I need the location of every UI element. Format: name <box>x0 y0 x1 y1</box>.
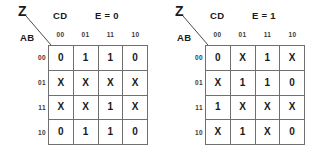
kmap-cell[interactable]: 0 <box>206 46 231 71</box>
row-variables-label: AB <box>20 32 35 43</box>
kmap-grid-row: XXXX <box>49 71 148 96</box>
row-header: 11 <box>24 95 46 120</box>
kmap-cell[interactable]: X <box>49 71 74 96</box>
row-header: 00 <box>181 45 203 70</box>
kmap-cell[interactable]: X <box>280 96 305 121</box>
row-variables-label: AB <box>177 32 192 43</box>
column-header: 10 <box>123 29 148 41</box>
kmap-grid-row: 1XXX <box>206 96 305 121</box>
kmap-grid: 0110XXXXXX1X0110 <box>48 45 148 145</box>
kmap-cell[interactable]: X <box>206 71 231 96</box>
kmap-grid-row: 0110 <box>49 120 148 145</box>
row-header: 10 <box>181 120 203 145</box>
kmap-cell[interactable]: X <box>206 120 231 145</box>
kmap-cell[interactable]: X <box>280 46 305 71</box>
kmap-cell[interactable]: 0 <box>280 120 305 145</box>
kmap-cell[interactable]: X <box>99 71 124 96</box>
column-header: 00 <box>48 29 73 41</box>
karnaugh-map-1: ZCDE = 1AB00011110000111100X1XX1101XXXX1… <box>157 0 314 153</box>
kmap-cell[interactable]: 0 <box>49 46 74 71</box>
kmap-cell[interactable]: 0 <box>123 120 148 145</box>
condition-label: E = 0 <box>95 10 119 21</box>
row-header-column: 00011110 <box>24 45 46 145</box>
kmap-cell[interactable]: X <box>74 96 99 121</box>
kmap-grid-row: X110 <box>206 71 305 96</box>
kmap-grid-row: 0X1X <box>206 46 305 71</box>
kmap-cell[interactable]: 0 <box>49 120 74 145</box>
row-header: 01 <box>24 70 46 95</box>
column-header: 01 <box>230 29 255 41</box>
column-header: 01 <box>73 29 98 41</box>
column-variables-label: CD <box>210 10 225 21</box>
kmap-cell[interactable]: 1 <box>99 96 124 121</box>
karnaugh-map-0: ZCDE = 0AB00011110000111100110XXXXXX1X01… <box>0 0 157 153</box>
column-header: 11 <box>255 29 280 41</box>
row-header: 01 <box>181 70 203 95</box>
row-header: 11 <box>181 95 203 120</box>
row-header-column: 00011110 <box>181 45 203 145</box>
column-header-row: 00011110 <box>48 29 148 41</box>
kmap-cell[interactable]: 1 <box>99 120 124 145</box>
kmap-cell[interactable]: 0 <box>123 46 148 71</box>
column-header: 00 <box>205 29 230 41</box>
kmap-cell[interactable]: 1 <box>231 71 256 96</box>
condition-label: E = 1 <box>252 10 276 21</box>
column-header-row: 00011110 <box>205 29 305 41</box>
kmap-cell[interactable]: X <box>123 71 148 96</box>
kmap-cell[interactable]: 0 <box>280 71 305 96</box>
kmap-cell[interactable]: 1 <box>206 96 231 121</box>
kmap-cell[interactable]: 1 <box>231 120 256 145</box>
kmap-cell[interactable]: X <box>256 96 281 121</box>
kmap-cell[interactable]: 1 <box>256 71 281 96</box>
kmap-cell[interactable]: X <box>256 120 281 145</box>
column-header: 11 <box>98 29 123 41</box>
kmap-cell[interactable]: X <box>49 96 74 121</box>
kmap-grid-row: X1X0 <box>206 120 305 145</box>
kmap-cell[interactable]: X <box>74 71 99 96</box>
kmap-cell[interactable]: X <box>123 96 148 121</box>
kmap-cell[interactable]: 1 <box>74 120 99 145</box>
row-header: 10 <box>24 120 46 145</box>
kmap-cell[interactable]: X <box>231 96 256 121</box>
column-variables-label: CD <box>53 10 68 21</box>
kmap-grid-row: XX1X <box>49 96 148 121</box>
kmap-cell[interactable]: 1 <box>256 46 281 71</box>
kmap-cell[interactable]: X <box>231 46 256 71</box>
kmap-cell[interactable]: 1 <box>99 46 124 71</box>
kmap-cell[interactable]: 1 <box>74 46 99 71</box>
kmap-grid-row: 0110 <box>49 46 148 71</box>
column-header: 10 <box>280 29 305 41</box>
row-header: 00 <box>24 45 46 70</box>
kmap-grid: 0X1XX1101XXXX1X0 <box>205 45 305 145</box>
